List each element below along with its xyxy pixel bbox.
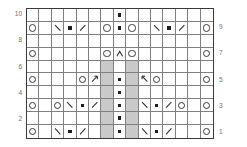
chart-cell — [176, 22, 188, 35]
chart-cell — [188, 22, 200, 35]
chart-cell — [151, 22, 163, 35]
chart-cell — [39, 48, 51, 61]
right-leaning-decrease-icon — [163, 125, 174, 138]
chart-cell — [114, 73, 126, 86]
chart-cell — [151, 125, 163, 138]
chart-cell — [52, 9, 64, 22]
right-leaning-decrease-icon — [77, 125, 88, 138]
chart-cell — [176, 9, 188, 22]
chart-cell — [176, 86, 188, 99]
row-number-9: 9 — [219, 24, 223, 31]
chart-cell — [188, 73, 200, 86]
chart-cell — [151, 112, 163, 125]
chart-cell — [77, 22, 89, 35]
chart-cell — [89, 35, 101, 48]
chart-cell — [89, 125, 101, 138]
purl-dot-icon — [118, 26, 121, 29]
row-number-4: 4 — [18, 90, 22, 97]
chart-cell — [163, 61, 175, 74]
chart-cell — [201, 86, 213, 99]
chart-cell — [77, 48, 89, 61]
chart-cell — [126, 48, 138, 61]
yarn-over-icon — [103, 50, 110, 57]
chart-cell — [64, 112, 76, 125]
chart-cell — [188, 125, 200, 138]
chart-cell — [64, 9, 76, 22]
chart-cell — [201, 125, 213, 138]
chart-cell — [101, 61, 113, 74]
chart-cell — [126, 22, 138, 35]
yarn-over-icon — [29, 102, 36, 109]
chart-cell — [89, 73, 101, 86]
chart-cell — [126, 125, 138, 138]
chart-cell — [176, 48, 188, 61]
chart-cell — [126, 86, 138, 99]
chart-cell — [163, 112, 175, 125]
chart-cell — [52, 86, 64, 99]
chart-cell — [201, 48, 213, 61]
chart-cell — [176, 112, 188, 125]
chart-cell — [114, 35, 126, 48]
yarn-over-icon — [203, 50, 210, 57]
left-leaning-decrease-icon — [139, 99, 150, 111]
yarn-over-icon — [103, 24, 110, 31]
yarn-over-icon — [203, 24, 210, 31]
chart-cell — [77, 86, 89, 99]
chart-cell — [114, 9, 126, 22]
chart-cell — [101, 48, 113, 61]
chart-cell — [201, 61, 213, 74]
left-leaning-decrease-icon — [139, 125, 150, 138]
chart-cell — [39, 86, 51, 99]
chart-cell — [39, 9, 51, 22]
left-leaning-decrease-icon — [64, 99, 75, 111]
chart-cell — [101, 22, 113, 35]
chart-cell — [52, 73, 64, 86]
chart-cell — [64, 99, 76, 112]
chart-cell — [27, 61, 39, 74]
chart-cell — [126, 9, 138, 22]
chart-cell — [151, 86, 163, 99]
yarn-over-icon — [128, 50, 135, 57]
yarn-over-icon — [153, 76, 160, 83]
purl-dot-icon — [118, 130, 121, 133]
chart-cell — [27, 112, 39, 125]
chart-cell — [27, 73, 39, 86]
left-leaning-decrease-icon — [52, 22, 63, 34]
row-number-8: 8 — [18, 37, 22, 44]
chart-cell — [114, 112, 126, 125]
chart-cell — [77, 9, 89, 22]
chart-cell — [139, 48, 151, 61]
chart-cell — [27, 99, 39, 112]
right-leaning-decrease-icon — [163, 99, 174, 111]
purl-dot-icon — [81, 104, 84, 107]
purl-dot-icon — [167, 26, 170, 29]
yarn-over-icon — [29, 128, 36, 135]
chart-cell — [151, 99, 163, 112]
purl-dot-icon — [155, 130, 158, 133]
chart-cell — [201, 99, 213, 112]
chart-cell — [163, 48, 175, 61]
chart-cell — [114, 61, 126, 74]
chart-cell — [77, 112, 89, 125]
right-leaning-decrease-icon — [176, 22, 187, 34]
yarn-over-icon — [128, 24, 135, 31]
chart-cell — [201, 9, 213, 22]
purl-dot-icon — [155, 104, 158, 107]
chart-cell — [89, 9, 101, 22]
chart-cell — [151, 61, 163, 74]
chart-cell — [163, 9, 175, 22]
chart-cell — [101, 99, 113, 112]
chart-cell — [39, 22, 51, 35]
chart-cell — [52, 22, 64, 35]
chart-cells — [27, 9, 213, 138]
chart-cell — [201, 112, 213, 125]
purl-dot-icon — [118, 104, 121, 107]
chart-cell — [52, 48, 64, 61]
row-number-10: 10 — [15, 11, 22, 18]
chart-cell — [39, 73, 51, 86]
yarn-over-icon — [29, 24, 36, 31]
chart-cell — [163, 99, 175, 112]
chart-cell — [139, 9, 151, 22]
chart-cell — [188, 35, 200, 48]
row-number-7: 7 — [219, 50, 223, 57]
